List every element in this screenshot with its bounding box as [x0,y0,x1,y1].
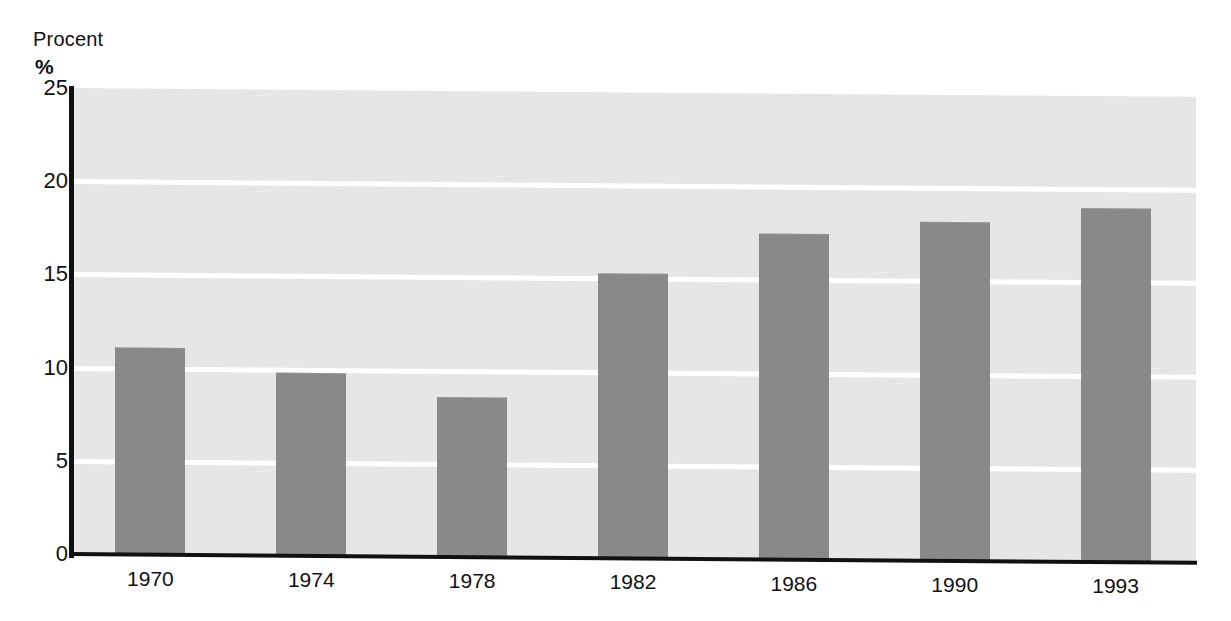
x-tick-label-1993: 1993 [1071,574,1161,598]
x-tick-label-1970: 1970 [105,567,195,591]
y-tick-label-0: 0 [8,543,68,565]
bar-1978 [437,397,507,558]
bar-1986 [759,233,829,560]
y-tick-label-15: 15 [8,263,68,285]
y-tick-label-10: 10 [8,357,68,379]
y-tick-label-20: 20 [8,170,68,192]
bar-1990 [920,221,990,561]
bar-1970 [115,347,185,554]
bar-1982 [598,273,668,559]
y-tick-label-5: 5 [8,450,68,472]
y-tick-label-25: 25 [8,77,68,99]
bar-1974 [276,373,346,556]
bar-1993 [1081,208,1151,563]
y-axis-caption: Procent [33,28,103,51]
x-tick-label-1974: 1974 [266,568,356,592]
plot-area [70,88,1196,563]
x-tick-label-1978: 1978 [427,569,517,593]
bars-layer [70,88,1196,563]
x-tick-label-1986: 1986 [749,572,839,596]
x-tick-label-1990: 1990 [910,573,1000,597]
x-tick-label-1982: 1982 [588,570,678,594]
y-axis-line [69,86,74,558]
bar-chart: Procent % 0510152025 1970197419781982198… [0,0,1231,621]
